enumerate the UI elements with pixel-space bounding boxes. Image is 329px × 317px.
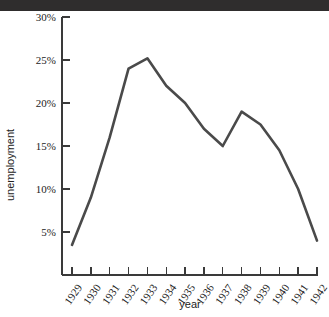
y-tick-label-30: 30% (36, 11, 56, 23)
x-tick-label-1930: 1930 (81, 281, 104, 306)
x-tick-label-1934: 1934 (156, 281, 179, 306)
x-tick-label-1938: 1938 (231, 281, 254, 306)
x-tick-label-1941: 1941 (288, 282, 310, 307)
y-tick-label-25: 25% (36, 54, 56, 66)
x-tick-label-1929: 1929 (62, 281, 85, 306)
unemployment-series-line (72, 58, 317, 245)
y-tick-label-10: 10% (36, 183, 56, 195)
x-tick-label-1932: 1932 (118, 282, 140, 307)
y-tick-label-20: 20% (36, 97, 56, 109)
x-tick-label-1937: 1937 (213, 281, 236, 306)
x-axis-title: year (179, 298, 201, 310)
y-axis-title: unemployment (4, 129, 16, 201)
y-tick-label-15: 15% (36, 140, 56, 152)
y-tick-label-5: 5% (41, 226, 56, 238)
chart-page: unemployment 30% 25% 20% 15% 10% 5% (0, 0, 329, 317)
chart-svg: unemployment 30% 25% 20% 15% 10% 5% (0, 11, 329, 317)
unemployment-line-chart: unemployment 30% 25% 20% 15% 10% 5% (0, 11, 329, 317)
x-tick-label-1931: 1931 (99, 282, 121, 307)
x-axis-ticks (72, 267, 317, 275)
cropped-title-band (0, 0, 329, 11)
x-tick-label-1940: 1940 (269, 281, 292, 306)
y-axis-ticks: 30% 25% 20% 15% 10% 5% (36, 11, 70, 238)
x-tick-label-1939: 1939 (250, 281, 273, 306)
x-tick-label-1933: 1933 (137, 281, 160, 306)
x-tick-label-1942: 1942 (307, 282, 329, 307)
